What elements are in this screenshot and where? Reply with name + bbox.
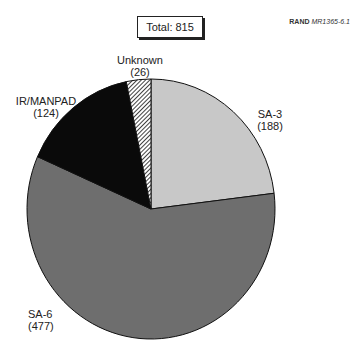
pie-slice-sa-3 — [151, 79, 274, 209]
pie-chart — [0, 0, 356, 360]
label-unknown: Unknown (26) — [110, 54, 170, 78]
label-irmanpad: IR/MANPAD (124) — [14, 95, 78, 119]
label-sa6: SA-6 (477) — [28, 308, 64, 332]
label-sa3: SA-3 (188) — [252, 108, 288, 132]
